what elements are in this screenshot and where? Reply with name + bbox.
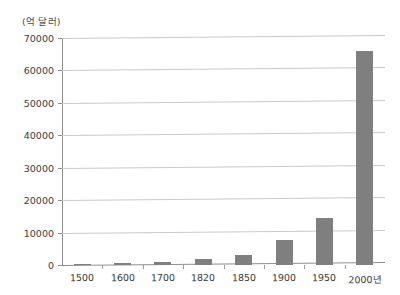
bar-1900 [276,240,293,265]
gridline-50000 [62,100,385,104]
bar-2000년 [356,51,373,265]
y-tick-label-30000: 30000 [0,162,54,173]
y-tick-label-70000: 70000 [0,33,54,44]
bar-1950 [316,218,333,265]
y-tick-mark-40000 [58,135,62,136]
y-tick-label-40000: 40000 [0,130,54,141]
x-tick-label-2000년: 2000년 [348,272,381,287]
plot-area [62,38,385,265]
gridline-70000 [62,35,385,39]
x-tick-mark-1 [143,265,144,269]
bar-1820 [195,259,212,265]
y-tick-mark-20000 [58,200,62,201]
x-tick-mark-5 [304,265,305,269]
bar-1850 [235,255,252,265]
bar-1600 [114,263,131,265]
x-tick-mark-0 [102,265,103,269]
y-axis-unit-label: (억 달러) [22,14,61,28]
x-tick-mark-3 [224,265,225,269]
y-tick-label-10000: 10000 [0,227,54,238]
y-tick-mark-0 [58,265,62,266]
x-tick-label-1600: 1600 [110,272,134,283]
x-tick-mark-6 [345,265,346,269]
y-tick-label-50000: 50000 [0,97,54,108]
gridline-30000 [62,165,385,169]
y-tick-mark-50000 [58,103,62,104]
x-tick-label-1500: 1500 [70,272,94,283]
x-tick-label-1820: 1820 [191,272,215,283]
y-tick-mark-60000 [58,70,62,71]
x-tick-mark-2 [183,265,184,269]
x-tick-label-1700: 1700 [151,272,175,283]
y-tick-label-20000: 20000 [0,195,54,206]
bar-1700 [154,262,171,265]
gridline-20000 [62,197,385,201]
y-tick-mark-10000 [58,233,62,234]
y-tick-mark-30000 [58,168,62,169]
gridline-60000 [62,67,385,71]
x-tick-label-1850: 1850 [231,272,255,283]
y-tick-label-60000: 60000 [0,65,54,76]
x-tick-label-1950: 1950 [312,272,336,283]
bar-1500 [74,264,91,266]
x-tick-label-1900: 1900 [272,272,296,283]
x-tick-mark-4 [264,265,265,269]
gridline-40000 [62,132,385,136]
y-tick-mark-70000 [58,38,62,39]
bar-chart: (억 달러) 010000200003000040000500006000070… [0,0,400,295]
y-tick-label-0: 0 [0,260,54,271]
gridline-10000 [62,229,385,233]
